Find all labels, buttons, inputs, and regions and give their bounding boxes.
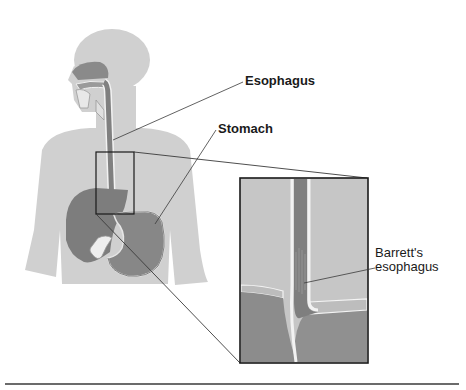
diagram-canvas: Esophagus Stomach Barrett's esophagus <box>0 0 466 390</box>
inset-magnified-view <box>240 178 368 363</box>
anatomy-illustration <box>0 0 466 390</box>
label-barretts-line2: esophagus <box>375 260 439 274</box>
label-esophagus: Esophagus <box>245 74 315 88</box>
label-barretts-esophagus: Barrett's esophagus <box>375 246 439 274</box>
label-barretts-line1: Barrett's <box>375 246 439 260</box>
label-stomach: Stomach <box>218 122 273 136</box>
bottom-divider <box>5 383 459 385</box>
